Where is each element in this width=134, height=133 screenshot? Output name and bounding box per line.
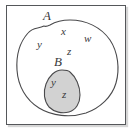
element-x-in-a: x [61,26,66,37]
element-y-in-b: y [51,77,56,88]
venn-diagram-graphic [0,0,134,133]
element-w-in-a: w [84,33,91,44]
diagram-canvas: A B y x w z y z [0,0,134,133]
element-z-in-b: z [62,89,66,100]
set-label-a: A [43,9,51,22]
element-z-in-a: z [67,46,71,57]
element-y-in-a: y [37,39,42,50]
set-label-b: B [54,55,62,68]
